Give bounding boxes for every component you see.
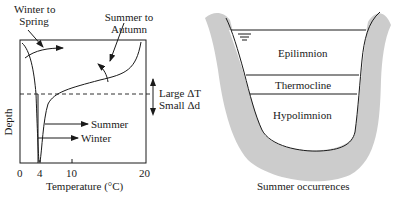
thermocline-label: Thermocline (275, 79, 331, 91)
x-tick-10: 10 (66, 167, 77, 179)
winter-to-spring-line2: Spring (14, 15, 54, 27)
winter-label: Winter (81, 132, 111, 144)
arrow-down-icon (150, 108, 156, 116)
winter-curve (22, 43, 39, 162)
x-axis-label: Temperature (°C) (46, 180, 123, 192)
summer-to-autumn-label: Summer to Autumn (104, 11, 154, 35)
x-tick-4: 4 (37, 167, 43, 179)
x-tick-20: 20 (139, 167, 150, 179)
summer-to-autumn-line2: Autumn (104, 23, 154, 35)
summer-label: Summer (91, 118, 128, 130)
x-tick-0: 0 (17, 167, 23, 179)
winter-to-spring-line1: Winter to (14, 3, 54, 15)
winter-to-spring-pointer (28, 30, 43, 47)
hypolimnion-label: Hypolimnion (273, 109, 332, 121)
caption: Summer occurrences (257, 180, 350, 192)
chart-frame (20, 40, 146, 163)
epilimnion-label: Epilimnion (278, 47, 328, 59)
summer-to-autumn-line1: Summer to (104, 11, 154, 23)
winter-to-spring-label: Winter to Spring (14, 3, 54, 27)
large-delta-t-label: Large ΔT (159, 87, 201, 99)
small-delta-d-label: Small Δd (159, 99, 200, 111)
winter-to-spring-arrow (25, 48, 63, 58)
arrow-up-icon (150, 78, 156, 86)
lake-cross-section (205, 12, 391, 181)
summer-curve (40, 42, 141, 162)
y-axis-label: Depth (2, 107, 14, 137)
